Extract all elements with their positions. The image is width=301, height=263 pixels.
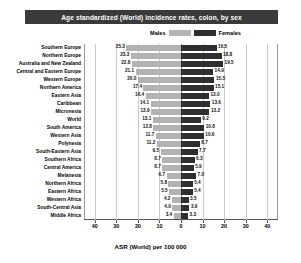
bar-males — [143, 85, 181, 91]
chart-title-bar: Age standardized (World) incidence rates… — [25, 10, 278, 24]
bar-value-males: 11.2 — [146, 140, 155, 147]
x-tick-mark — [181, 220, 182, 223]
chart-row: 25.316.5 — [84, 44, 278, 52]
chart-row: 3.43.3 — [84, 212, 278, 220]
x-tick-mark — [159, 220, 160, 223]
chart-row: 13.913.2 — [84, 108, 278, 116]
bar-value-females: 5.4 — [194, 180, 201, 187]
x-tick-label: 20 — [221, 223, 227, 229]
chart-row: 4.23.5 — [84, 196, 278, 204]
category-label: Western Africa — [47, 196, 81, 204]
bar-value-females: 16.5 — [218, 44, 227, 51]
bar-males — [174, 213, 181, 219]
category-label: Central America — [44, 164, 81, 172]
x-tick-label: 20 — [135, 223, 141, 229]
bar-females — [181, 125, 204, 131]
bar-value-males: 13.1 — [142, 116, 151, 123]
chart-row: 13.19.2 — [84, 116, 278, 124]
category-label: Caribbean — [57, 100, 81, 108]
chart-row: 5.85.4 — [84, 180, 278, 188]
bar-males — [126, 45, 181, 51]
category-label: Australia and New Zealand — [19, 60, 81, 68]
bar-value-males: 22.8 — [121, 60, 130, 67]
x-tick-label: 40 — [264, 223, 270, 229]
bar-females — [181, 205, 189, 211]
bar-females — [181, 149, 198, 155]
bar-males — [151, 101, 181, 107]
chart-row: 5.55.4 — [84, 188, 278, 196]
bar-value-females: 3.3 — [190, 212, 197, 219]
bar-males — [169, 189, 181, 195]
chart-row: 16.413.0 — [84, 92, 278, 100]
category-label: Eastern Asia — [52, 92, 81, 100]
bar-value-males: 3.4 — [166, 212, 173, 219]
category-label: Northern America — [40, 84, 81, 92]
bar-value-males: 16.4 — [135, 92, 144, 99]
x-tick-label: 30 — [243, 223, 249, 229]
bar-females — [181, 69, 213, 75]
bar-males — [172, 205, 181, 211]
bar-males — [153, 125, 181, 131]
bar-value-females: 7.7 — [199, 148, 206, 155]
bar-value-males: 4.2 — [164, 196, 171, 203]
bar-females — [181, 77, 214, 83]
bar-value-females: 13.2 — [211, 108, 220, 115]
chart-row: 17.415.1 — [84, 84, 278, 92]
x-tick-mark — [95, 220, 96, 223]
bar-value-females: 13.0 — [211, 92, 220, 99]
bar-value-females: 15.5 — [216, 76, 225, 83]
bar-value-males: 13.9 — [140, 108, 149, 115]
bar-value-females: 13.6 — [212, 100, 221, 107]
x-tick-label: 0 — [180, 223, 183, 229]
category-axis: Southern EuropeNorthern EuropeAustralia … — [0, 44, 84, 220]
bar-males — [146, 93, 181, 99]
category-label: Middle Africa — [50, 212, 81, 220]
bar-value-males: 20.0 — [127, 76, 136, 83]
bar-value-males: 25.3 — [116, 44, 125, 51]
bar-value-males: 4.0 — [164, 204, 171, 211]
category-label: Northern Africa — [45, 180, 81, 188]
chart-row: 23.318.8 — [84, 52, 278, 60]
bar-value-males: 8.7 — [154, 156, 161, 163]
bar-value-males: 5.8 — [160, 180, 167, 187]
bar-females — [181, 189, 193, 195]
bar-value-males: 6.7 — [159, 172, 166, 179]
bar-value-females: 5.4 — [194, 188, 201, 195]
x-tick-mark — [246, 220, 247, 223]
legend-swatch-females — [194, 30, 216, 36]
bar-males — [162, 165, 181, 171]
legend-label-females: Females — [219, 30, 241, 36]
bar-males — [156, 133, 181, 139]
bar-value-females: 10.8 — [206, 124, 215, 131]
page-title: Age standardized (World) incidence rates… — [61, 14, 242, 21]
bar-value-females: 7.0 — [198, 172, 205, 179]
chart-row: 11.710.6 — [84, 132, 278, 140]
bar-females — [181, 213, 188, 219]
chart-legend: Males Females — [150, 30, 241, 36]
bar-females — [181, 165, 194, 171]
bar-females — [181, 109, 209, 115]
bar-females — [181, 197, 189, 203]
bar-value-females: 6.3 — [196, 156, 203, 163]
category-label: Polynesia — [58, 140, 81, 148]
x-tick-mark — [138, 220, 139, 223]
category-label: World — [67, 116, 81, 124]
bar-females — [181, 141, 200, 147]
x-axis-title: ASR (World) per 100 000 — [0, 243, 301, 250]
bar-females — [181, 53, 222, 59]
bar-value-females: 18.8 — [223, 52, 232, 59]
category-label: Southern Africa — [44, 156, 81, 164]
chart-row: 11.28.7 — [84, 140, 278, 148]
bar-males — [153, 117, 181, 123]
chart-row: 22.819.5 — [84, 60, 278, 68]
bar-males — [138, 77, 181, 83]
category-label: South-Central Asia — [37, 204, 81, 212]
bar-value-males: 23.3 — [120, 52, 129, 59]
bar-value-females: 3.5 — [190, 196, 197, 203]
x-tick-mark — [116, 220, 117, 223]
bar-value-females: 15.1 — [215, 84, 224, 91]
bar-value-males: 8.7 — [154, 164, 161, 171]
legend-swatch-males — [169, 30, 191, 36]
chart-row: 14.113.6 — [84, 100, 278, 108]
chart-row: 6.77.0 — [84, 172, 278, 180]
